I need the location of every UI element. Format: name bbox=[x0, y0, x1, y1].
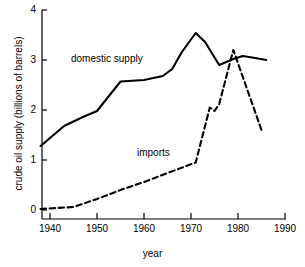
x-tick-label-1960: 1960 bbox=[127, 224, 161, 234]
series-label-domestic-supply: domestic supply bbox=[71, 53, 143, 64]
x-tick-label-1970: 1970 bbox=[174, 224, 208, 234]
x-tick-label-1940: 1940 bbox=[33, 224, 67, 234]
x-tick-label-1990: 1990 bbox=[268, 224, 302, 234]
crude-oil-supply-chart: 4 3 2 1 0 1940 1950 1960 1970 1980 1990 … bbox=[0, 0, 305, 267]
axis-lines bbox=[42, 10, 286, 219]
y-tick-label-4: 4 bbox=[22, 5, 36, 15]
x-axis-title: year bbox=[0, 248, 305, 259]
y-tick-label-2: 2 bbox=[22, 105, 36, 115]
y-tick-label-0: 0 bbox=[22, 205, 36, 215]
y-axis-title: crude oil supply (billions of barrels) bbox=[13, 34, 24, 194]
x-tick-label-1980: 1980 bbox=[221, 224, 255, 234]
y-tick-label-1: 1 bbox=[22, 155, 36, 165]
y-axis-ticks bbox=[42, 10, 47, 210]
x-tick-label-1950: 1950 bbox=[80, 224, 114, 234]
series-line-imports bbox=[41, 50, 262, 209]
x-axis-ticks bbox=[50, 213, 285, 219]
y-tick-label-3: 3 bbox=[22, 55, 36, 65]
series-label-imports: imports bbox=[137, 147, 170, 158]
